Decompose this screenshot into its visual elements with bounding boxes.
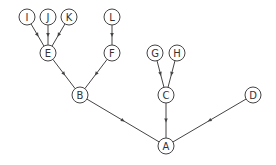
edges-layer [31,24,246,142]
node-e: E [40,45,56,61]
node-label: J [46,12,50,23]
node-h: H [169,45,185,61]
node-g: G [147,45,163,61]
node-label: G [151,48,159,59]
node-label: L [109,12,115,23]
node-k: K [61,9,77,25]
arrowhead-icon [110,33,114,37]
node-c: C [158,87,174,103]
node-label: E [45,48,51,59]
node-j: J [40,9,56,25]
edge-h-to-c [168,61,175,88]
arrowhead-icon [46,33,50,37]
edge-l-to-f [110,25,114,45]
edge-e-to-b [53,59,75,88]
edge-b-to-a [87,99,159,142]
edge-j-to-e [46,25,50,45]
edge-i-to-e [31,24,44,46]
edge-k-to-e [52,24,65,46]
node-l: L [104,9,120,25]
node-f: F [104,45,120,61]
tree-diagram: ABCDEFGHIJKL [0,0,276,165]
nodes-layer: ABCDEFGHIJKL [19,9,261,154]
edge-g-to-c [157,61,164,88]
edge-f-to-b [85,59,107,88]
arrowhead-icon [164,119,168,123]
node-label: A [163,141,170,152]
diagram-canvas: ABCDEFGHIJKL [0,0,276,165]
node-label: D [249,90,257,101]
node-d: D [245,87,261,103]
node-label: I [26,12,29,23]
node-i: I [19,9,35,25]
node-a: A [158,138,174,154]
node-label: F [109,48,115,59]
edge-d-to-a [173,99,246,142]
node-label: C [163,90,170,101]
node-label: B [77,90,84,101]
node-b: B [72,87,88,103]
node-label: H [173,48,181,59]
node-label: K [66,12,73,23]
edge-c-to-a [164,103,168,138]
